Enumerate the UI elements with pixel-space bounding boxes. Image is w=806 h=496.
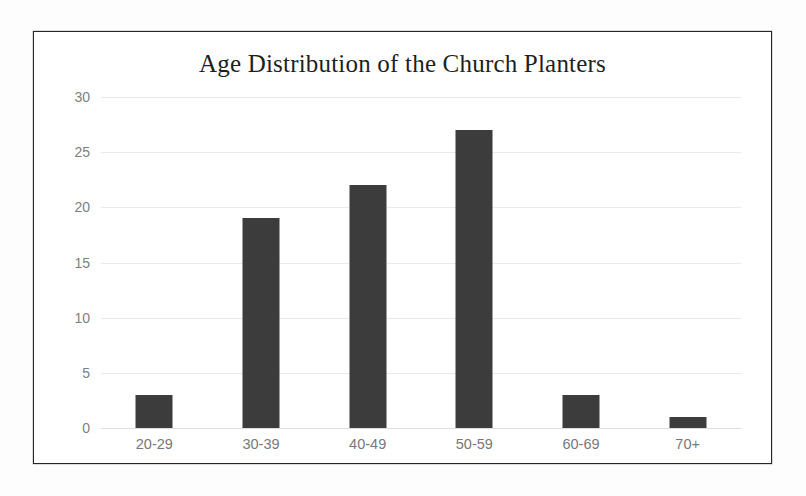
x-axis-tick-label: 20-29	[101, 436, 208, 452]
bar-slot	[101, 97, 208, 428]
chart-frame: Age Distribution of the Church Planters …	[33, 31, 772, 464]
chart-page: Age Distribution of the Church Planters …	[0, 0, 806, 496]
x-axis-tick-label: 40-49	[314, 436, 421, 452]
bar-slot	[314, 97, 421, 428]
y-axis-tick-label: 5	[82, 365, 90, 381]
bar-slot	[421, 97, 528, 428]
bar-slot	[208, 97, 315, 428]
y-axis-tick-label: 0	[82, 420, 90, 436]
bar[interactable]	[242, 218, 279, 428]
bar-slot	[528, 97, 635, 428]
x-axis-tick-label: 70+	[634, 436, 741, 452]
y-axis-tick-label: 25	[74, 144, 90, 160]
y-axis-tick-label: 30	[74, 89, 90, 105]
bar[interactable]	[136, 395, 173, 428]
bar[interactable]	[456, 130, 493, 428]
bar-slot	[634, 97, 741, 428]
chart-title: Age Distribution of the Church Planters	[34, 50, 771, 78]
gridline: 0	[101, 428, 741, 429]
y-axis-tick-label: 10	[74, 310, 90, 326]
bar-series	[101, 97, 741, 428]
bar[interactable]	[669, 417, 706, 428]
bar[interactable]	[562, 395, 599, 428]
x-axis-tick-label: 60-69	[528, 436, 635, 452]
x-axis-labels: 20-2930-3940-4950-5960-6970+	[101, 436, 741, 462]
bar[interactable]	[349, 185, 386, 428]
x-axis-tick-label: 50-59	[421, 436, 528, 452]
plot-area: 051015202530	[101, 97, 741, 428]
y-axis-tick-label: 15	[74, 255, 90, 271]
x-axis-tick-label: 30-39	[208, 436, 315, 452]
y-axis-tick-label: 20	[74, 199, 90, 215]
